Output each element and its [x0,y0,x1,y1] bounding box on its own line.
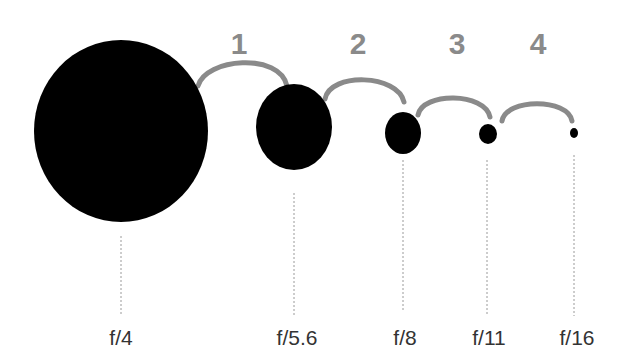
step-arc-1 [198,63,287,86]
step-arc-4 [502,104,572,121]
step-number-4: 4 [530,27,547,60]
fstop-label-f11: f/11 [472,326,505,349]
aperture-diagram: 1 2 3 4 f/4 f/5.6 f/8 f/11 f/16 [0,0,617,361]
fstop-label-f8: f/8 [393,326,416,349]
aperture-circle-f5-6 [256,84,332,170]
aperture-circle-f4 [34,40,208,222]
fstop-label-f16: f/16 [559,326,594,349]
step-number-2: 2 [350,27,367,60]
aperture-circle-f11 [479,124,497,144]
fstop-labels: f/4 f/5.6 f/8 f/11 f/16 [109,326,594,349]
aperture-circle-f8 [385,112,421,154]
step-numbers: 1 2 3 4 [231,27,547,60]
aperture-circles [34,40,578,222]
step-arc-2 [325,80,404,102]
step-number-3: 3 [449,27,466,60]
fstop-label-f5-6: f/5.6 [277,326,318,349]
step-arcs [198,63,572,121]
step-number-1: 1 [231,27,248,60]
fstop-label-f4: f/4 [109,326,133,349]
step-arc-3 [418,98,490,117]
aperture-circle-f16 [570,128,578,138]
